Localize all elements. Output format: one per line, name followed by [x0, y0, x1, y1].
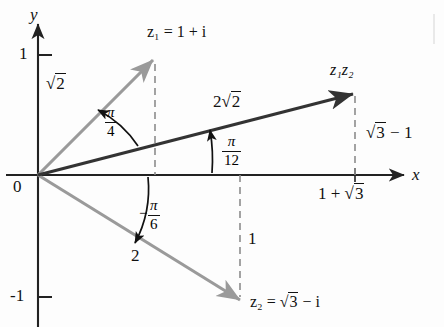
y-tick-label-1: 1: [19, 45, 28, 62]
annotation-height-z1z2: √3 − 1: [366, 124, 412, 141]
magnitude-label-z2: 2: [131, 247, 140, 264]
vector-z2: [38, 175, 240, 300]
point-label-z1: z₁ = 1 + i: [147, 24, 206, 40]
annotation-height-z2: 1: [248, 230, 257, 247]
magnitude-label-z1: √2: [46, 75, 66, 92]
angle-arc-pi-over-12: [210, 130, 213, 173]
complex-plane-figure: y x 0 1 -1 z₁ = 1 + i z₁z₂ z₂ = √3 − i √…: [0, 0, 444, 327]
point-label-z2: z₂ = √3 − i: [250, 294, 320, 310]
y-tick-label-minus-1: -1: [10, 287, 24, 304]
angle-label-pi-over-4: π 4: [105, 105, 117, 140]
scan-edge-artifact: [433, 14, 435, 44]
y-axis-label: y: [30, 6, 38, 23]
x-axis-label: x: [412, 166, 420, 183]
magnitude-label-z1z2: 2√2: [213, 93, 241, 110]
angle-label-pi-over-12: π 12: [222, 134, 241, 169]
angle-arc-pi-over-4: [98, 110, 138, 146]
vector-z1z2: [38, 94, 353, 175]
angle-label-minus-pi-over-6: − π 6: [148, 198, 160, 233]
origin-label: 0: [13, 178, 22, 195]
point-label-z1z2: z₁z₂: [330, 62, 354, 78]
x-tick-label-1-plus-sqrt3: 1 + √3: [318, 185, 364, 202]
